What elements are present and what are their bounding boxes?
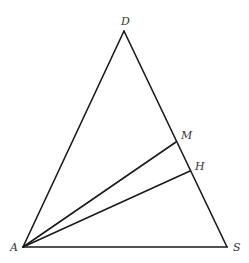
point-label-H: H [194, 160, 205, 173]
triangle-diagram: D A S M H [0, 0, 249, 263]
segment-DS [124, 31, 227, 247]
vertex-label-D: D [120, 15, 130, 28]
segment-AM [23, 142, 176, 247]
vertex-label-A: A [9, 241, 18, 254]
point-label-M: M [180, 129, 193, 142]
segment-AH [23, 171, 190, 247]
segment-AD [23, 31, 124, 247]
diagram-canvas: D A S M H [0, 0, 249, 263]
vertex-label-S: S [233, 241, 241, 254]
